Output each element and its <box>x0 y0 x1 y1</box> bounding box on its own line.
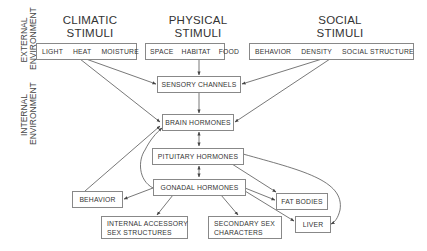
edge-behavior-brain <box>85 126 160 191</box>
edge-pituitary-liver <box>243 154 340 224</box>
header-line: STIMULI <box>158 27 238 40</box>
header-line: STIMULI <box>305 27 375 40</box>
header-line: STIMULI <box>55 27 125 40</box>
physical-stimuli-header: PHYSICAL STIMULI <box>158 14 238 40</box>
brain-hormones-label: BRAIN HORMONES <box>165 119 231 126</box>
climatic-stimuli-header: CLIMATIC STIMULI <box>55 14 125 40</box>
brain-hormones-box: BRAIN HORMONES <box>162 114 234 131</box>
sensory-channels-box: SENSORY CHANNELS <box>157 76 241 93</box>
fat-bodies-box: FAT BODIES <box>276 193 328 210</box>
sensory-channels-label: SENSORY CHANNELS <box>161 81 236 88</box>
liver-box: LIVER <box>295 216 331 233</box>
edge-gonadal-behavior <box>124 188 153 199</box>
gonadal-hormones-label: GONADAL HORMONES <box>160 184 238 191</box>
stimulus-habitat: HABITAT <box>182 48 211 55</box>
secondary-sex-characters-box: SECONDARY SEX CHARACTERS <box>208 216 282 239</box>
stimulus-food: FOOD <box>219 48 239 55</box>
fat-bodies-label: FAT BODIES <box>281 198 322 205</box>
pituitary-hormones-label: PITUITARY HORMONES <box>158 153 238 160</box>
stimulus-light: LIGHT <box>42 48 63 55</box>
internal-accessory-sex-structures-box: INTERNAL ACCESSORY SEX STRUCTURES <box>101 216 188 239</box>
physical-stimuli-box: SPACE HABITAT FOOD <box>145 43 225 60</box>
internal-accessory-line2: SEX STRUCTURES <box>107 228 172 237</box>
header-line: CLIMATIC <box>55 14 125 27</box>
secondary-sex-line2: CHARACTERS <box>214 228 263 237</box>
behavior-label: BEHAVIOR <box>79 196 115 203</box>
side-label-line: ENVIRONMENT <box>29 10 38 70</box>
behavior-box: BEHAVIOR <box>72 191 123 208</box>
external-environment-label: EXTERNAL ENVIRONMENT <box>20 10 38 70</box>
internal-accessory-line1: INTERNAL ACCESSORY <box>107 219 188 228</box>
header-line: PHYSICAL <box>158 14 238 27</box>
stimulus-density: DENSITY <box>301 48 332 55</box>
stimulus-heat: HEAT <box>73 48 91 55</box>
stimulus-social-structure: SOCIAL STRUCTURE <box>342 48 414 55</box>
edge-gonadal-secondary <box>221 195 238 215</box>
gonadal-hormones-box: GONADAL HORMONES <box>153 179 246 196</box>
edge-gonadal-internal <box>157 195 173 215</box>
stimulus-behavior: BEHAVIOR <box>255 48 291 55</box>
stimulus-space: SPACE <box>150 48 174 55</box>
internal-environment-label: INTERNAL ENVIRONMENT <box>20 85 38 145</box>
liver-label: LIVER <box>303 221 324 228</box>
pituitary-hormones-box: PITUITARY HORMONES <box>152 148 244 165</box>
social-stimuli-box: BEHAVIOR DENSITY SOCIAL STRUCTURE <box>249 43 414 60</box>
edge-density-sensory <box>242 59 322 84</box>
header-line: SOCIAL <box>305 14 375 27</box>
edge-social-brain <box>235 59 330 122</box>
climatic-stimuli-box: LIGHT HEAT MOISTURE <box>36 43 137 60</box>
edge-heat-brain <box>80 59 160 122</box>
secondary-sex-line1: SECONDARY SEX <box>214 219 275 228</box>
stimulus-moisture: MOISTURE <box>101 48 138 55</box>
social-stimuli-header: SOCIAL STIMULI <box>305 14 375 40</box>
side-label-line: ENVIRONMENT <box>29 85 38 145</box>
